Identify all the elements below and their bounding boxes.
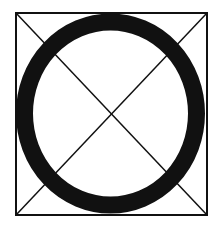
square-circle-diagram: [0, 0, 220, 228]
